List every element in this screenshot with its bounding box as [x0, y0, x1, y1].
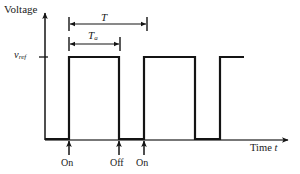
vref-subscript: ref — [19, 53, 27, 61]
time-word: Time — [250, 142, 274, 153]
event-marker-arrows — [69, 141, 144, 155]
y-axis-label: Voltage — [4, 4, 37, 15]
pwm-timing-diagram: Voltage vref T Ta Time t On Off On — [0, 0, 300, 174]
period-label: T — [101, 12, 107, 23]
event-label-on-2: On — [136, 158, 148, 168]
on-time-label: Ta — [88, 30, 98, 42]
event-label-on-1: On — [61, 158, 73, 168]
x-axis-label: Time t — [250, 143, 277, 154]
on-time-subscript: a — [94, 34, 98, 42]
pwm-waveform — [45, 57, 244, 139]
period-dimension — [69, 17, 147, 31]
vref-tick-label: vref — [14, 50, 26, 61]
time-variable: t — [274, 142, 277, 153]
event-label-off-1: Off — [110, 158, 124, 168]
